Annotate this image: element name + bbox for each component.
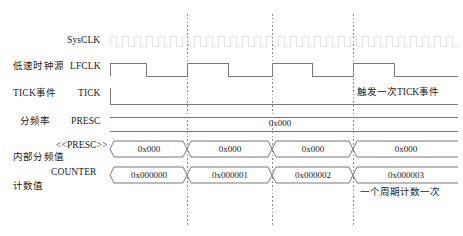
row-label-tick-cn: TICK事件 [13, 89, 56, 99]
timing-diagram: SysCLK 低速时钟源 LFCLK TICK事件 TICK 分频率 PRESC… [0, 0, 463, 236]
presc-internal-value-1: 0x000 [203, 145, 257, 154]
annotation-counter-period: 一个周期计数一次 [360, 188, 440, 198]
counter-value-2: 0x000002 [286, 171, 340, 180]
row-label-sysclk-en: SysCLK [67, 36, 100, 46]
row-label-counter-cn: 计数值 [13, 182, 44, 192]
lfclk-waveform [110, 63, 458, 76]
presc-internal-value-3: 0x000 [379, 145, 433, 154]
presc-internal-value-2: 0x000 [286, 145, 340, 154]
presc-internal-value-0: 0x000 [122, 145, 176, 154]
row-label-presc-cn: 分频率 [20, 117, 51, 127]
counter-value-3: 0x000003 [379, 171, 433, 180]
row-label-lfclk-cn: 低速时钟源 [13, 62, 64, 72]
row-label-presc-en: PRESC [71, 117, 101, 127]
row-label-counter-en: COUNTER [51, 168, 97, 178]
row-label-presc-internal-en: <<PRESC>> [56, 141, 107, 151]
annotation-tick-event: 触发一次TICK事件 [357, 88, 439, 98]
row-label-lfclk-en: LFCLK [70, 62, 101, 72]
counter-value-1: 0x000001 [203, 171, 257, 180]
presc-static-value: 0x000 [255, 119, 305, 128]
counter-value-0: 0x000000 [122, 171, 176, 180]
row-label-presc-internal-cn: 内部分频值 [13, 153, 64, 163]
sysclk-waveform [110, 36, 458, 46]
row-label-tick-en: TICK [78, 89, 101, 99]
